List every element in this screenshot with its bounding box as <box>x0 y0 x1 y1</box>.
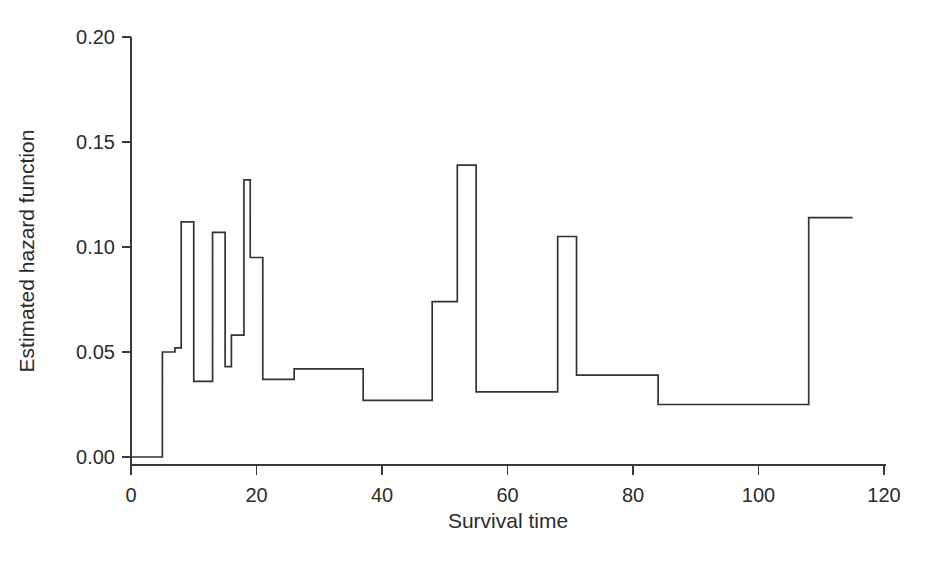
x-tick-label: 100 <box>742 484 775 506</box>
hazard-step-curve <box>131 165 853 457</box>
y-tick-label: 0.10 <box>76 236 115 258</box>
y-tick-label: 0.15 <box>76 131 115 153</box>
x-tick-label: 80 <box>622 484 644 506</box>
x-axis-title: Survival time <box>448 509 568 532</box>
x-axis-tick-marks <box>131 465 884 475</box>
y-tick-label: 0.20 <box>76 26 115 48</box>
hazard-function-figure: 0.000.050.100.150.20 020406080100120 Sur… <box>0 0 948 561</box>
y-axis-tick-labels: 0.000.050.100.150.20 <box>76 26 115 468</box>
y-axis-title: Estimated hazard function <box>15 130 38 373</box>
x-tick-label: 40 <box>371 484 393 506</box>
x-tick-label: 120 <box>867 484 900 506</box>
y-tick-label: 0.05 <box>76 341 115 363</box>
chart-canvas: 0.000.050.100.150.20 020406080100120 Sur… <box>0 0 948 561</box>
x-tick-label: 20 <box>245 484 267 506</box>
y-tick-label: 0.00 <box>76 446 115 468</box>
x-tick-label: 60 <box>496 484 518 506</box>
y-axis-tick-marks <box>122 37 131 457</box>
x-axis-tick-labels: 020406080100120 <box>125 484 900 506</box>
x-tick-label: 0 <box>125 484 136 506</box>
